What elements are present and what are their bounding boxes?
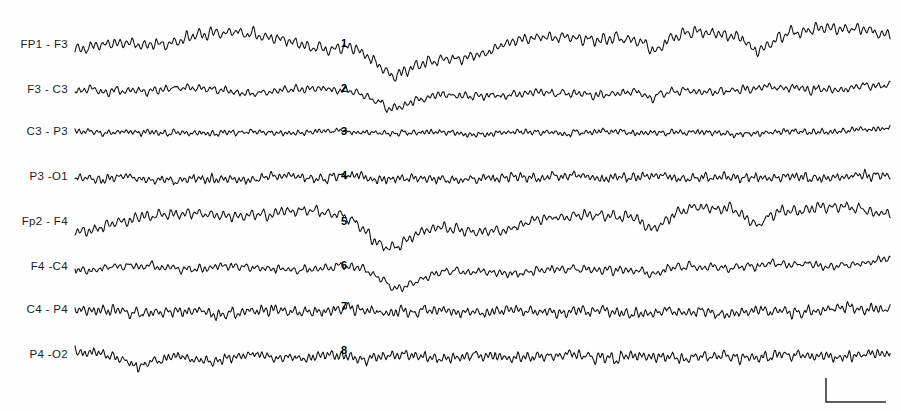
event-annotation-4: 4: [341, 170, 347, 181]
eeg-trace-f4-c4: [75, 256, 890, 292]
event-annotation-1: 1: [341, 38, 347, 49]
eeg-trace-p3-o1: [75, 169, 890, 184]
eeg-trace-canvas: [0, 0, 901, 411]
eeg-traces-group: [75, 23, 890, 372]
eeg-trace-fp2-f4: [75, 202, 890, 251]
channel-label-f4-c4: F4 -C4: [31, 261, 68, 273]
channel-label-p4-o2: P4 -O2: [29, 349, 68, 361]
event-annotation-6: 6: [341, 260, 347, 271]
eeg-trace-c4-p4: [75, 302, 890, 321]
eeg-trace-p4-o2: [75, 346, 890, 372]
channel-label-f3-c3: F3 - C3: [27, 84, 68, 96]
eeg-recording-page: FP1 - F3F3 - C3C3 - P3P3 -O1Fp2 - F4F4 -…: [0, 0, 901, 411]
channel-label-c3-p3: C3 - P3: [27, 126, 68, 138]
calibration-scale-bar: [826, 378, 886, 402]
channel-label-fp2-f4: Fp2 - F4: [22, 216, 68, 228]
event-annotation-5: 5: [341, 216, 347, 227]
channel-label-fp1-f3: FP1 - F3: [20, 39, 68, 51]
calibration-marker-group: [826, 378, 886, 402]
channel-label-p3-o1: P3 -O1: [29, 171, 68, 183]
event-annotation-7: 7: [341, 301, 347, 312]
eeg-trace-fp1-f3: [75, 23, 890, 82]
event-annotation-2: 2: [341, 83, 347, 94]
eeg-trace-c3-p3: [75, 125, 890, 137]
event-annotation-3: 3: [341, 126, 347, 137]
eeg-trace-f3-c3: [75, 81, 890, 112]
event-annotation-8: 8: [341, 345, 347, 356]
channel-label-c4-p4: C4 - P4: [27, 304, 68, 316]
